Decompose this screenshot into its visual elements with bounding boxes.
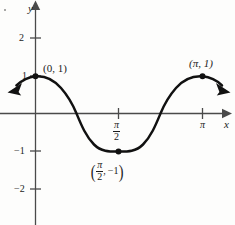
curve-right-arrowhead <box>216 83 231 96</box>
point-label-y-intercept: (0, 1) <box>43 63 67 74</box>
fraction-numerator: π <box>113 120 120 132</box>
cosine-graph-svg <box>0 0 235 225</box>
minimum-open-paren: ( <box>91 162 96 181</box>
x-axis-label: x <box>224 119 229 130</box>
figure-canvas: y x 2 1 −1 −2 π 2 π (0, 1) (π, 1) (π2,−1… <box>0 0 235 225</box>
y-tick-label-minus-1: −1 <box>14 146 25 156</box>
minimum-close-paren: ) <box>119 162 124 181</box>
x-tick-label-pi: π <box>200 120 205 130</box>
y-tick-label-1: 1 <box>22 71 27 81</box>
fraction-denominator: 2 <box>113 132 120 143</box>
point-label-maximum-right: (π, 1) <box>189 58 213 69</box>
point-minimum <box>116 149 122 155</box>
minimum-fraction-denominator: 2 <box>96 172 103 183</box>
y-axis-label: y <box>28 3 33 14</box>
curve-left-arrowhead <box>8 83 23 96</box>
point-label-minimum: (π2,−1) <box>90 160 125 182</box>
minimum-y-value: −1 <box>106 166 119 176</box>
x-tick-label-pi-over-2: π 2 <box>113 120 120 142</box>
minimum-fraction: π2 <box>96 160 103 182</box>
point-maximum-right <box>200 73 206 79</box>
x-axis-arrowhead <box>222 109 232 118</box>
point-y-intercept <box>33 73 39 79</box>
y-tick-label-2: 2 <box>19 33 24 43</box>
minimum-fraction-numerator: π <box>96 160 103 172</box>
y-tick-label-minus-2: −2 <box>14 184 25 194</box>
fraction-pi-over-2: π 2 <box>113 120 120 142</box>
